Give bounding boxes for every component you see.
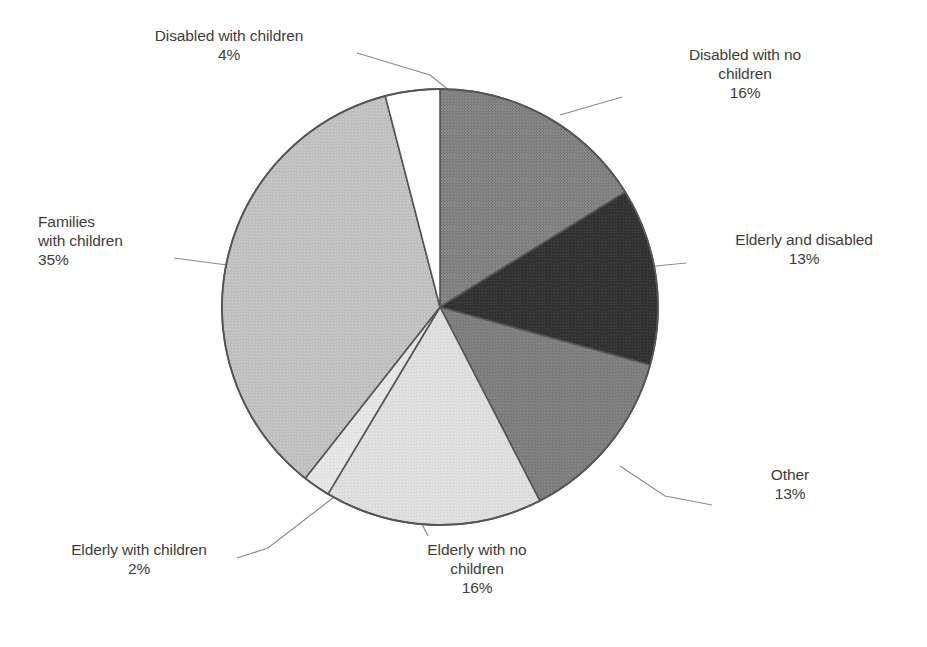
leader-line-disabled-with-no-children	[560, 97, 622, 115]
pie-label-other: Other 13%	[700, 465, 880, 503]
pie-label-elderly-with-children: Elderly with children 2%	[14, 540, 264, 578]
pie-label-families-with-children: Families with children 35%	[38, 212, 248, 269]
pie-label-elderly-and-disabled: Elderly and disabled 13%	[688, 230, 920, 268]
leader-line-other	[620, 466, 712, 505]
pie-label-disabled-with-no-children: Disabled with no children 16%	[620, 45, 870, 102]
pie-label-elderly-with-no-children: Elderly with no children 16%	[357, 540, 597, 597]
pie-slices	[222, 89, 658, 525]
pie-chart-figure: Disabled with children 4% Disabled with …	[0, 0, 927, 647]
pie-label-disabled-with-children: Disabled with children 4%	[104, 26, 354, 64]
